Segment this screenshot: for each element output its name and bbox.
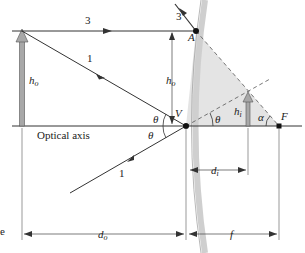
image-arrow-shaft [246, 100, 250, 126]
label-theta-reflected: θ [148, 129, 154, 141]
label-ray-1-reflected: 1 [119, 167, 125, 179]
label-ray-1: 1 [87, 52, 93, 64]
object-arrow-shaft [20, 38, 25, 126]
label-image-distance: di [211, 164, 219, 178]
label-ho-dimension: ho [166, 74, 176, 88]
ray-1-incoming [22, 31, 186, 126]
edge-text-fragment: e [0, 225, 5, 237]
label-point-F: F [280, 110, 288, 122]
label-point-V: V [175, 107, 183, 119]
ray-diagram: 3 3 1 1 ho ho hi A V F θ θ θ α Optical a… [0, 0, 305, 253]
label-optical-axis: Optical axis [37, 129, 90, 141]
label-theta-incoming: θ [153, 113, 159, 125]
theta-arc-incoming [163, 114, 166, 126]
label-ray-3-reflected: 3 [176, 10, 182, 22]
label-object-distance: do [98, 228, 108, 242]
point-F [277, 124, 282, 129]
label-object-height: ho [29, 74, 39, 88]
label-theta-image: θ [215, 113, 221, 125]
theta-arc-reflected [163, 126, 166, 138]
label-point-A: A [187, 31, 195, 43]
label-ray-3: 3 [85, 14, 91, 26]
label-alpha: α [258, 111, 264, 123]
